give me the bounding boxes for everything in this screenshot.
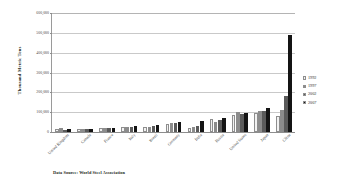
bar xyxy=(59,128,63,132)
bar-group xyxy=(96,13,118,132)
bar xyxy=(77,129,81,132)
bar xyxy=(81,129,85,132)
bar xyxy=(222,118,226,132)
bar xyxy=(166,124,170,132)
y-tick-label: 400,000 xyxy=(22,51,49,55)
bar xyxy=(280,110,284,132)
bar xyxy=(152,126,156,132)
bar xyxy=(284,96,288,132)
x-tick-label: Russia xyxy=(186,133,225,172)
bar-group xyxy=(229,13,251,132)
y-axis-tick xyxy=(50,92,52,93)
bar-groups xyxy=(52,13,295,132)
bar xyxy=(103,128,107,132)
bar xyxy=(214,122,218,132)
bar xyxy=(174,123,178,132)
bar xyxy=(244,113,248,132)
y-tick-label: 200,000 xyxy=(22,90,49,94)
bar xyxy=(210,119,214,132)
bar xyxy=(67,129,71,132)
bar-group xyxy=(273,13,295,132)
legend-label: 1992 xyxy=(308,76,316,80)
source-note: Data Source: World Steel Association xyxy=(53,170,125,175)
y-tick-label: 0 xyxy=(22,130,49,134)
bar xyxy=(99,128,103,132)
bar xyxy=(200,121,204,132)
y-axis-tick xyxy=(50,73,52,74)
legend-item: 2002 xyxy=(303,92,316,96)
bar xyxy=(134,126,138,132)
bar-group xyxy=(207,13,229,132)
y-tick-label: 300,000 xyxy=(22,71,49,75)
bar-group xyxy=(185,13,207,132)
bar xyxy=(236,112,240,132)
bar-group xyxy=(52,13,74,132)
steel-production-bar-chart: Thousand Metric Tons 0100,000200,000300,… xyxy=(0,0,349,189)
legend-item: 1997 xyxy=(303,84,316,88)
legend-label: 2002 xyxy=(308,92,316,96)
bar xyxy=(130,127,134,132)
bar xyxy=(170,123,174,132)
bar xyxy=(55,129,59,132)
legend-swatch-icon xyxy=(303,85,306,88)
bar xyxy=(266,108,270,132)
bar xyxy=(156,125,160,132)
bar xyxy=(178,122,182,132)
y-axis-tick xyxy=(50,13,52,14)
legend-item: 1992 xyxy=(303,76,316,80)
bar xyxy=(143,127,147,132)
legend-label: 2007 xyxy=(308,101,316,105)
y-tick-label: 100,000 xyxy=(22,110,49,114)
bar xyxy=(188,128,192,132)
bar-group xyxy=(140,13,162,132)
legend-swatch-icon xyxy=(303,93,306,96)
x-tick-label: Brazil xyxy=(120,133,159,172)
y-tick-label: 500,000 xyxy=(22,31,49,35)
x-axis-category-labels: United KingdomCanadaFranceItalyBrazilGer… xyxy=(51,133,295,173)
bar-group xyxy=(162,13,184,132)
bar xyxy=(262,111,266,132)
y-axis-tick xyxy=(50,112,52,113)
plot-area xyxy=(51,13,295,132)
bar xyxy=(192,127,196,132)
bar xyxy=(218,120,222,132)
legend-swatch-icon xyxy=(303,101,306,104)
legend-swatch-icon xyxy=(303,76,306,79)
bar xyxy=(148,127,152,132)
bar xyxy=(258,111,262,132)
bar-group xyxy=(118,13,140,132)
y-axis-tick xyxy=(50,53,52,54)
bar xyxy=(125,127,129,132)
bar xyxy=(254,113,258,132)
legend: 1992199720022007 xyxy=(303,76,316,105)
bar-group xyxy=(251,13,273,132)
y-axis-title: Thousand Metric Tons xyxy=(17,25,22,117)
legend-label: 1997 xyxy=(308,84,316,88)
y-tick-label: 600,000 xyxy=(22,11,49,15)
bar xyxy=(121,127,125,132)
bar xyxy=(89,129,93,132)
bar xyxy=(240,114,244,132)
bar xyxy=(232,115,236,132)
bar-group xyxy=(74,13,96,132)
y-axis-tick xyxy=(50,33,52,34)
bar xyxy=(276,116,280,132)
legend-item: 2007 xyxy=(303,101,316,105)
bar xyxy=(288,35,292,132)
bar xyxy=(112,128,116,132)
x-tick-label: China xyxy=(253,133,292,172)
